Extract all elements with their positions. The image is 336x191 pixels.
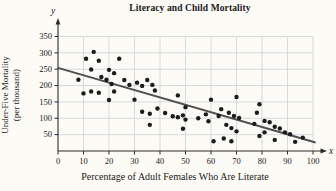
data-point [107,68,111,72]
data-point [97,59,101,63]
data-point [257,102,261,106]
data-point [127,83,131,87]
data-point [273,125,277,129]
x-axis-symbol: x [328,146,334,156]
data-point [140,84,144,88]
data-point [262,130,266,134]
data-point [112,71,116,75]
data-point [153,88,157,92]
trend-line [58,68,316,143]
data-point [237,116,241,120]
y-tick-label: 100 [39,113,52,123]
data-point [122,78,126,82]
x-tick-label: 30 [130,156,139,166]
data-point [257,134,261,138]
scatter-chart: Literacy and Child Mortality Under-Five … [0,0,336,191]
data-point [150,83,154,87]
data-point [234,95,238,99]
data-point [181,127,185,131]
data-point [204,112,208,116]
data-point [135,80,139,84]
y-tick-label: 300 [39,48,52,58]
x-tick-label: 40 [156,156,165,166]
data-point [89,89,93,93]
data-point [229,126,233,130]
x-tick-label: 20 [105,156,114,166]
x-tick-label: 100 [307,156,320,166]
x-tick-label: 0 [56,156,60,166]
x-tick-label: 80 [258,156,267,166]
data-point [109,82,113,86]
data-point [283,130,287,134]
data-point [224,123,228,127]
data-point [262,119,266,123]
data-point [92,50,96,54]
data-point [181,113,185,117]
data-point [209,97,213,101]
data-point [163,111,167,115]
data-point [267,120,271,124]
data-point [219,107,223,111]
data-point [183,105,187,109]
y-axis-symbol: y [50,6,56,16]
data-point [227,111,231,115]
data-point [81,91,85,95]
data-point [176,93,180,97]
x-axis-arrow-icon [321,149,328,154]
x-axis-title: Percentage of Adult Females Who Are Lite… [40,171,310,182]
plot-area: yx50100150200250300350010203040506070809… [0,0,336,191]
y-tick-label: 250 [39,64,52,74]
data-point [288,132,292,136]
data-point [255,111,259,115]
data-point [183,117,187,121]
data-point [89,67,93,71]
data-point [84,57,88,61]
data-point [99,75,103,79]
data-point [222,136,226,140]
data-point [232,114,236,118]
data-point [148,123,152,127]
y-tick-label: 350 [39,31,52,41]
x-tick-label: 60 [207,156,216,166]
data-point [216,114,220,118]
y-tick-label: 200 [39,80,52,90]
data-point [171,114,175,118]
data-point [229,139,233,143]
data-point [76,77,80,81]
data-point [211,139,215,143]
data-point [132,97,136,101]
data-point [196,116,200,120]
data-point [278,126,282,130]
data-point [155,106,159,110]
x-tick-label: 50 [181,156,190,166]
data-point [301,135,305,139]
data-point [273,138,277,142]
data-point [97,91,101,95]
data-point [145,78,149,82]
x-tick-label: 70 [232,156,241,166]
data-point [293,140,297,144]
data-point [117,57,121,61]
x-tick-label: 10 [79,156,88,166]
y-tick-label: 50 [44,129,53,139]
data-point [234,129,238,133]
y-tick-label: 150 [39,97,52,107]
data-point [107,98,111,102]
data-point [148,112,152,116]
data-point [176,115,180,119]
data-point [206,119,210,123]
x-tick-label: 90 [283,156,292,166]
y-axis-arrow-icon [56,18,61,25]
data-point [104,77,108,81]
data-point [140,110,144,114]
data-point [252,122,256,126]
data-point [112,89,116,93]
